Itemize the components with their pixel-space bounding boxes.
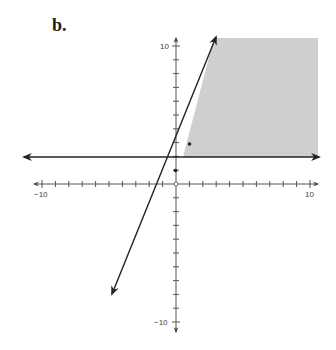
y-max-label: 10: [160, 42, 169, 51]
origin-marker: [174, 182, 178, 186]
point-0-1: [174, 169, 178, 173]
shaded-region: [183, 38, 318, 157]
x-max-label: 10: [305, 190, 314, 199]
y-min-label: −10: [154, 318, 168, 327]
line-y-equals-2x-plus-1: [112, 37, 216, 294]
coordinate-plane: −10 10 10 −10: [0, 0, 336, 350]
x-min-label: −10: [34, 190, 48, 199]
point-1-3: [188, 142, 192, 146]
